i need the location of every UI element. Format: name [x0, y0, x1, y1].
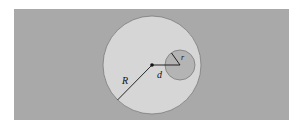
diagram-canvas: R d r — [0, 0, 299, 125]
label-R: R — [121, 75, 128, 86]
center-dot — [150, 63, 154, 67]
